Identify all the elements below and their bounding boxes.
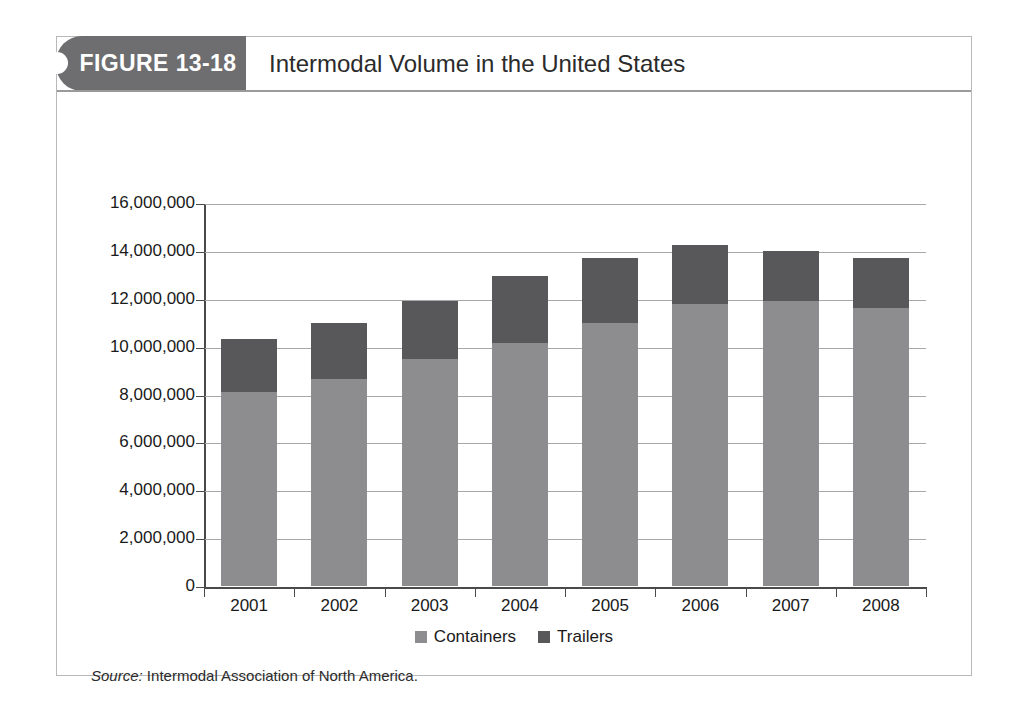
bar-segment-containers[interactable] (582, 323, 638, 586)
y-axis-tick-label: 16,000,000 (110, 193, 195, 213)
figure-number-tab: FIGURE 13-18 (56, 36, 246, 91)
y-axis-tick (196, 491, 205, 492)
bar-segment-containers[interactable] (402, 359, 458, 586)
figure-frame: FIGURE 13-18 Intermodal Volume in the Un… (56, 36, 972, 676)
bar-stack[interactable] (402, 301, 458, 586)
bar-segment-trailers[interactable] (492, 276, 548, 343)
legend-label: Trailers (557, 627, 613, 647)
x-axis-tick-label: 2005 (570, 596, 650, 616)
y-axis-tick (196, 443, 205, 444)
bar-stack[interactable] (763, 251, 819, 586)
x-axis-tick-label: 2007 (751, 596, 831, 616)
bar-stack[interactable] (221, 339, 277, 586)
y-axis-labels: 02,000,0004,000,0006,000,0008,000,00010,… (57, 204, 195, 587)
y-axis-tick-label: 12,000,000 (110, 289, 195, 309)
bar-stack[interactable] (672, 245, 728, 586)
x-axis-tick-label: 2006 (660, 596, 740, 616)
legend-item[interactable]: Trailers (538, 627, 613, 647)
y-axis-tick-label: 0 (186, 576, 195, 596)
x-axis-tick-label: 2001 (209, 596, 289, 616)
source-note: Source: Intermodal Association of North … (91, 667, 418, 684)
y-axis-tick (196, 300, 205, 301)
chart-legend: ContainersTrailers (57, 627, 971, 647)
y-axis-tick (196, 252, 205, 253)
figure-title: Intermodal Volume in the United States (269, 37, 685, 91)
bar-segment-containers[interactable] (672, 304, 728, 586)
bar-segment-containers[interactable] (492, 343, 548, 586)
y-axis-tick-label: 10,000,000 (110, 337, 195, 357)
figure-header: FIGURE 13-18 Intermodal Volume in the Un… (57, 37, 971, 91)
bar-stack[interactable] (492, 276, 548, 586)
bar-segment-trailers[interactable] (402, 301, 458, 358)
plot-area (204, 204, 926, 587)
source-note-text: Intermodal Association of North America. (143, 667, 418, 684)
bar-segment-trailers[interactable] (672, 245, 728, 304)
y-axis-tick (196, 396, 205, 397)
x-axis-tick-label: 2004 (480, 596, 560, 616)
y-axis-tick-label: 8,000,000 (119, 385, 195, 405)
bar-segment-containers[interactable] (763, 301, 819, 586)
bar-stack[interactable] (582, 258, 638, 586)
legend-item[interactable]: Containers (415, 627, 516, 647)
bar-stack[interactable] (311, 323, 367, 586)
legend-swatch-icon (538, 631, 550, 643)
x-axis-tick-label: 2008 (841, 596, 921, 616)
y-axis-tick-label: 4,000,000 (119, 480, 195, 500)
y-axis-tick-label: 14,000,000 (110, 241, 195, 261)
bar-segment-containers[interactable] (853, 308, 909, 586)
bar-segment-containers[interactable] (221, 392, 277, 586)
legend-swatch-icon (415, 631, 427, 643)
bar-stack[interactable] (853, 258, 909, 586)
bar-segment-containers[interactable] (311, 379, 367, 586)
source-note-label: Source: (91, 667, 143, 684)
x-axis-labels: 20012002200320042005200620072008 (204, 596, 927, 620)
bar-segment-trailers[interactable] (763, 251, 819, 301)
y-axis-tick-label: 2,000,000 (119, 528, 195, 548)
bar-segment-trailers[interactable] (311, 323, 367, 379)
figure-number-label: FIGURE 13-18 (66, 50, 237, 77)
bar-segment-trailers[interactable] (582, 258, 638, 323)
y-axis-tick (196, 204, 205, 205)
y-axis-tick (196, 539, 205, 540)
bar-segment-trailers[interactable] (221, 339, 277, 392)
x-axis-tick-label: 2002 (299, 596, 379, 616)
x-axis-tick-label: 2003 (390, 596, 470, 616)
bar-segment-trailers[interactable] (853, 258, 909, 308)
y-axis-tick (196, 348, 205, 349)
gridline (204, 204, 926, 205)
y-axis-tick-label: 6,000,000 (119, 432, 195, 452)
chart-area: 02,000,0004,000,0006,000,0008,000,00010,… (57, 91, 971, 675)
legend-label: Containers (434, 627, 516, 647)
